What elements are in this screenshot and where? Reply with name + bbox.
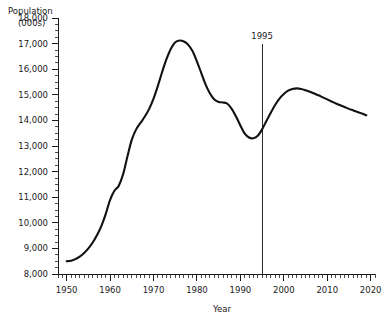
- x-axis-tick-label: 1960: [99, 285, 121, 295]
- y-axis-tick-label: 16,000: [18, 64, 48, 74]
- y-axis-tick-label: 15,000: [18, 90, 48, 100]
- x-axis-title: Year: [212, 304, 232, 314]
- y-axis-tick-label: 10,000: [18, 218, 48, 228]
- x-axis-tick-label: 2010: [316, 285, 338, 295]
- population-line-chart: Population (000s) 8,0009,00010,00011,000…: [0, 0, 390, 324]
- axis-frame: [58, 18, 375, 274]
- y-axis-tick-label: 11,000: [18, 192, 48, 202]
- reference-line-1995-label: 1995: [251, 31, 273, 41]
- y-axis-tick-label: 12,000: [18, 167, 48, 177]
- y-axis-tick-label: 8,000: [24, 269, 48, 279]
- chart-canvas: Population (000s) 8,0009,00010,00011,000…: [0, 0, 390, 324]
- x-axis-tick-labels: 19501960197019801990200020102020: [56, 285, 382, 295]
- y-axis-tick-label: 17,000: [18, 39, 48, 49]
- y-axis-tick-labels: 8,0009,00010,00011,00012,00013,00014,000…: [18, 13, 48, 279]
- annotation-group: 1995: [251, 31, 273, 274]
- x-axis-tick-label: 1950: [56, 285, 78, 295]
- y-axis-tick-label: 9,000: [24, 243, 48, 253]
- y-axis-tick-label: 14,000: [18, 115, 48, 125]
- x-axis-tick-label: 2020: [360, 285, 382, 295]
- population-series-line: [67, 41, 367, 262]
- x-axis-tick-label: 2000: [273, 285, 295, 295]
- y-axis-tick-label: 18,000: [18, 13, 48, 23]
- x-axis-tick-label: 1970: [143, 285, 165, 295]
- y-axis-tick-label: 13,000: [18, 141, 48, 151]
- x-axis-tick-label: 1990: [230, 285, 252, 295]
- x-axis-tick-label: 1980: [186, 285, 208, 295]
